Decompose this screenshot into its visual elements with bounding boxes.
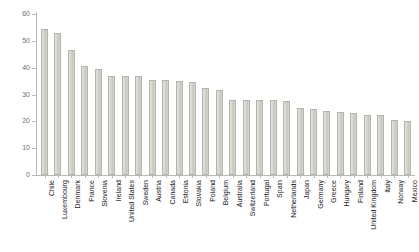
x-tick-mark <box>260 175 261 178</box>
x-tick-label: Slovakia <box>195 180 202 206</box>
x-tick-label: Spain <box>276 180 283 198</box>
bar <box>216 90 223 175</box>
x-tick-label: Denmark <box>74 180 81 208</box>
bar <box>337 112 344 175</box>
bar <box>95 69 102 175</box>
x-tick-label: Netherlands <box>290 180 297 218</box>
bar <box>310 109 317 175</box>
bar <box>404 121 411 175</box>
x-tick-mark <box>45 175 46 178</box>
bar <box>135 76 142 175</box>
x-tick-label: Greece <box>330 180 337 203</box>
bar <box>68 50 75 175</box>
x-tick-mark <box>246 175 247 178</box>
x-tick-mark <box>300 175 301 178</box>
x-tick-mark <box>166 175 167 178</box>
x-tick-label: Poland <box>209 180 216 202</box>
x-tick-label: Austria <box>155 180 162 202</box>
bar <box>256 100 263 175</box>
x-axis-line <box>36 175 415 176</box>
y-tick-mark <box>32 95 36 96</box>
x-tick-label: Japan <box>303 180 310 199</box>
x-tick-label: United States <box>128 180 135 222</box>
bar <box>122 76 129 175</box>
x-tick-mark <box>139 175 140 178</box>
bar <box>189 82 196 175</box>
x-tick-mark <box>408 175 409 178</box>
y-tick-label: 30 <box>22 90 30 99</box>
x-tick-label: United Kingdom <box>370 180 377 230</box>
bar <box>81 66 88 175</box>
x-tick-label: Mexico <box>411 180 418 202</box>
bar <box>364 115 371 175</box>
x-tick-mark <box>192 175 193 178</box>
bar <box>270 100 277 175</box>
x-tick-mark <box>179 175 180 178</box>
x-tick-label: Australia <box>236 180 243 207</box>
bar <box>176 81 183 175</box>
x-tick-mark <box>273 175 274 178</box>
bar <box>41 29 48 175</box>
x-tick-label: Portugal <box>263 180 270 206</box>
x-tick-mark <box>367 175 368 178</box>
x-tick-mark <box>394 175 395 178</box>
bar <box>108 76 115 175</box>
x-tick-label: Slovenia <box>101 180 108 207</box>
x-tick-label: Switzerland <box>249 180 256 216</box>
bar <box>54 33 61 175</box>
bar <box>323 111 330 175</box>
bar <box>229 100 236 175</box>
y-tick-label: 0 <box>26 170 30 179</box>
bar <box>391 120 398 175</box>
x-tick-label: Germany <box>317 180 324 209</box>
x-tick-label: Hungary <box>343 180 350 206</box>
x-tick-label: Estonia <box>182 180 189 203</box>
x-tick-mark <box>58 175 59 178</box>
y-tick-mark <box>32 14 36 15</box>
x-tick-mark <box>219 175 220 178</box>
y-tick-label: 40 <box>22 63 30 72</box>
bar <box>350 113 357 175</box>
bar <box>283 101 290 175</box>
x-tick-label: Belgium <box>222 180 229 205</box>
bar <box>297 108 304 175</box>
x-tick-mark <box>152 175 153 178</box>
x-tick-label: Norway <box>397 180 404 204</box>
y-tick-mark <box>32 68 36 69</box>
bar <box>377 115 384 175</box>
y-tick-label: 10 <box>22 143 30 152</box>
x-tick-label: Luxembourg <box>61 180 68 219</box>
y-tick-mark <box>32 121 36 122</box>
x-tick-mark <box>85 175 86 178</box>
y-tick-label: 50 <box>22 36 30 45</box>
x-tick-mark <box>340 175 341 178</box>
x-tick-label: Ireland <box>115 180 122 201</box>
x-tick-mark <box>71 175 72 178</box>
x-tick-mark <box>314 175 315 178</box>
x-tick-mark <box>354 175 355 178</box>
bar <box>162 80 169 175</box>
bar <box>202 88 209 175</box>
x-tick-label: Chile <box>48 180 55 196</box>
x-tick-mark <box>98 175 99 178</box>
y-tick-mark <box>32 175 36 176</box>
x-tick-label: Italy <box>384 180 391 193</box>
x-tick-label: Canada <box>169 180 176 205</box>
x-tick-mark <box>327 175 328 178</box>
x-tick-label: Sweden <box>142 180 149 205</box>
y-axis-line <box>36 12 37 175</box>
x-tick-label: Finland <box>357 180 364 203</box>
x-tick-mark <box>287 175 288 178</box>
y-tick-label: 60 <box>22 9 30 18</box>
y-tick-mark <box>32 41 36 42</box>
y-tick-label: 20 <box>22 116 30 125</box>
x-tick-mark <box>206 175 207 178</box>
x-tick-label: France <box>88 180 95 202</box>
y-tick-mark <box>32 148 36 149</box>
x-tick-mark <box>125 175 126 178</box>
bar <box>149 80 156 175</box>
x-tick-mark <box>233 175 234 178</box>
x-tick-mark <box>381 175 382 178</box>
x-tick-mark <box>112 175 113 178</box>
bar-chart: 0102030405060 ChileLuxembourgDenmarkFran… <box>0 0 419 252</box>
